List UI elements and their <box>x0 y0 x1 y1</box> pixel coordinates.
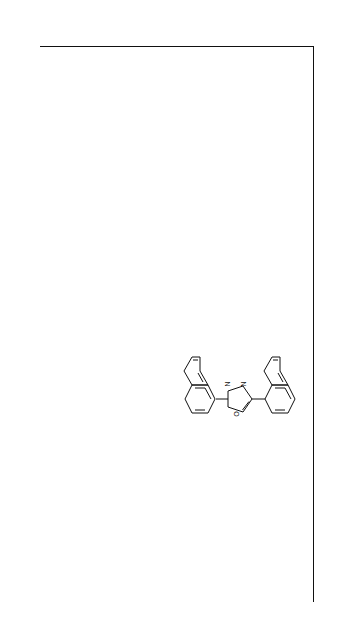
plot-area <box>40 46 314 602</box>
atom-label-n2: N <box>224 381 231 386</box>
spectra-curves <box>39 47 313 603</box>
atom-label-o: O <box>233 411 240 417</box>
spectrum-figure: N N O <box>0 0 348 624</box>
atom-label-n1: N <box>240 381 247 386</box>
molecular-structure-diagram: N N O <box>146 355 296 443</box>
